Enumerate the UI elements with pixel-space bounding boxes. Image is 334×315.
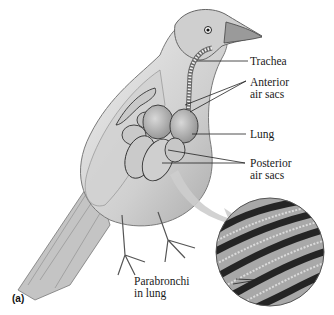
- label-anterior-line1: Anterior: [250, 76, 289, 88]
- label-anterior-air-sacs: Anterior air sacs: [250, 76, 289, 100]
- label-posterior-air-sacs: Posterior air sacs: [250, 157, 292, 181]
- label-anterior-line2: air sacs: [250, 88, 289, 100]
- label-lung: Lung: [250, 128, 274, 140]
- label-trachea: Trachea: [250, 55, 287, 67]
- label-parabronchi-line2: in lung: [134, 287, 190, 299]
- label-parabronchi: Parabronchi in lung: [134, 275, 190, 299]
- panel-label: (a): [12, 293, 24, 304]
- label-posterior-line2: air sacs: [250, 169, 292, 181]
- label-posterior-line1: Posterior: [250, 157, 292, 169]
- label-parabronchi-line1: Parabronchi: [134, 275, 190, 287]
